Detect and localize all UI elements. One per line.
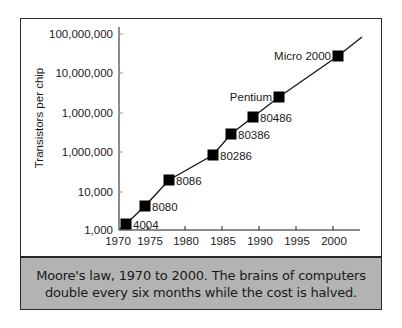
x-ticks xyxy=(148,226,333,230)
x-tick-label: 1975 xyxy=(137,235,163,247)
marker-8086 xyxy=(164,175,175,186)
x-tick-labels: 1970 1975 1980 1985 1990 1995 2000 xyxy=(105,235,347,247)
y-tick-label: 100,000,000 xyxy=(49,28,113,40)
point-label-80286: 80286 xyxy=(220,150,252,162)
y-tick-label: 10,000 xyxy=(78,186,113,198)
x-tick-label: 1995 xyxy=(284,235,310,247)
y-tick-label: 1,000,000 xyxy=(62,146,113,158)
caption-box: Moore's law, 1970 to 2000. The brains of… xyxy=(20,257,382,310)
chart-svg: 100,000,000 10,000,000 1,000,000 1,000,0… xyxy=(0,0,402,260)
point-label-8080: 8080 xyxy=(152,201,178,213)
moores-law-figure: 100,000,000 10,000,000 1,000,000 1,000,0… xyxy=(0,0,402,328)
y-axis-title: Transistors per chip xyxy=(33,68,45,169)
marker-micro-2000 xyxy=(333,51,344,62)
caption-text: Moore's law, 1970 to 2000. The brains of… xyxy=(21,267,381,301)
point-label-80386: 80386 xyxy=(238,129,270,141)
y-tick-label: 1,000,000 xyxy=(62,107,113,119)
point-label-80486: 80486 xyxy=(260,112,292,124)
point-label-4004: 4004 xyxy=(133,219,159,231)
point-label-pentium: Pentium xyxy=(230,91,272,103)
x-tick-label: 1990 xyxy=(247,235,273,247)
marker-80286 xyxy=(208,150,219,161)
marker-80386 xyxy=(226,129,237,140)
y-tick-label: 10,000,000 xyxy=(55,67,113,79)
x-tick-label: 2000 xyxy=(321,235,347,247)
x-tick-label: 1980 xyxy=(173,235,199,247)
y-ticks xyxy=(119,34,123,192)
point-labels: 4004 8080 8086 80286 80386 80486 Pentium… xyxy=(133,50,331,231)
point-label-8086: 8086 xyxy=(176,175,202,187)
x-tick-label: 1970 xyxy=(105,235,131,247)
marker-8080 xyxy=(140,201,151,212)
point-label-micro-2000: Micro 2000 xyxy=(274,50,331,62)
marker-4004 xyxy=(121,219,132,230)
marker-80486 xyxy=(248,112,259,123)
marker-pentium xyxy=(274,92,285,103)
x-tick-label: 1985 xyxy=(210,235,236,247)
y-tick-labels: 100,000,000 10,000,000 1,000,000 1,000,0… xyxy=(49,28,113,236)
